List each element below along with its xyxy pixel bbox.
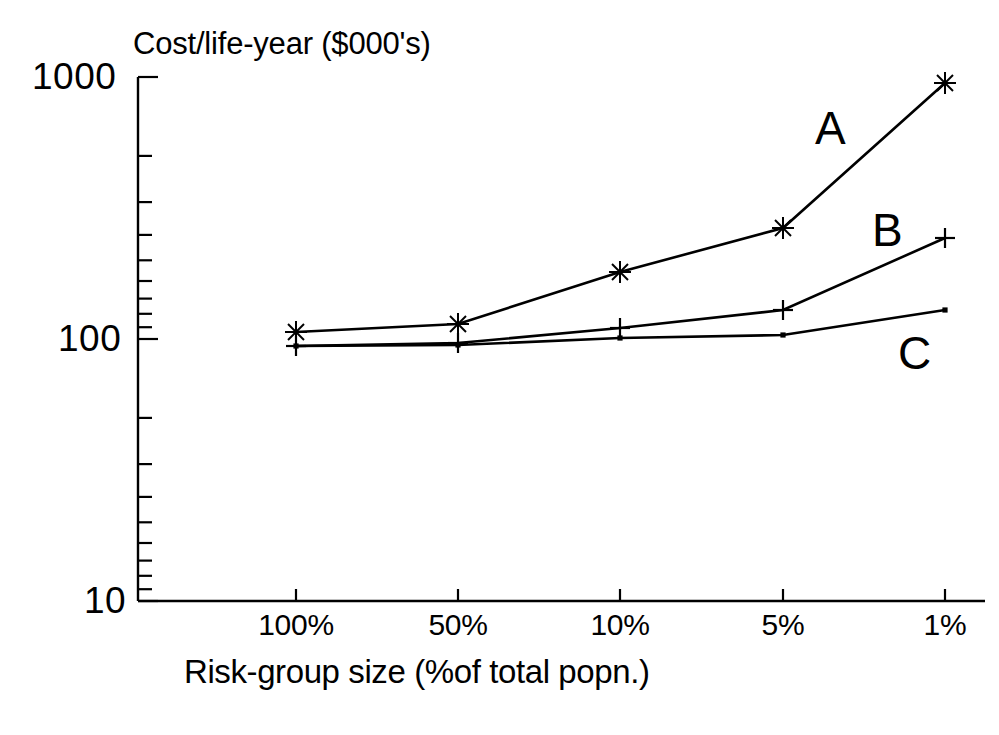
x-axis-tick-label-50pct: 50%	[428, 608, 487, 642]
x-axis-tick-label-1pct: 1%	[924, 608, 967, 642]
chart-figure: Cost/life-year ($000's) 1000 100 10 100%…	[0, 0, 999, 735]
series-label-c: C	[898, 330, 931, 376]
x-axis-tick-label-100pct: 100%	[258, 608, 334, 642]
x-axis-label: Risk-group size (%of total popn.)	[184, 655, 650, 688]
series-line-B	[286, 228, 955, 356]
series-line-A	[285, 72, 956, 343]
chart-plot-area	[0, 0, 999, 735]
chart-title: Cost/life-year ($000's)	[133, 28, 431, 59]
y-axis-tick-label-1000: 1000	[32, 58, 116, 95]
series-label-b: B	[872, 207, 903, 253]
series-label-a: A	[815, 105, 846, 151]
x-axis-tick-label-10pct: 10%	[590, 608, 649, 642]
x-axis-ticks	[296, 589, 945, 601]
y-axis-tick-label-10: 10	[84, 582, 126, 619]
x-axis-tick-label-5pct: 5%	[762, 608, 805, 642]
y-axis-ticks	[138, 77, 158, 601]
axis-lines	[138, 77, 985, 601]
y-axis-tick-label-100: 100	[58, 320, 121, 357]
